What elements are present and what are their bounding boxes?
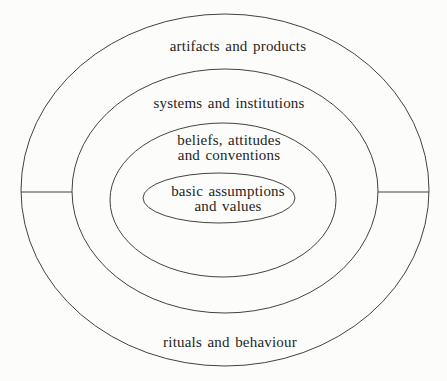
culture-onion-diagram: artifacts and products systems and insti… xyxy=(0,0,447,381)
label-beliefs-attitudes-conventions: beliefs, attitudes and conventions xyxy=(177,133,280,163)
label-rituals-and-behaviour: rituals and behaviour xyxy=(163,335,297,350)
label-basic-assumptions-values: basic assumptions and values xyxy=(171,184,285,214)
label-systems-and-institutions: systems and institutions xyxy=(153,96,304,111)
label-beliefs-line2: and conventions xyxy=(177,148,280,163)
label-core-line1: basic assumptions xyxy=(171,184,285,199)
label-core-line2: and values xyxy=(171,199,285,214)
label-beliefs-line1: beliefs, attitudes xyxy=(177,133,280,148)
label-artifacts-and-products: artifacts and products xyxy=(170,39,307,54)
